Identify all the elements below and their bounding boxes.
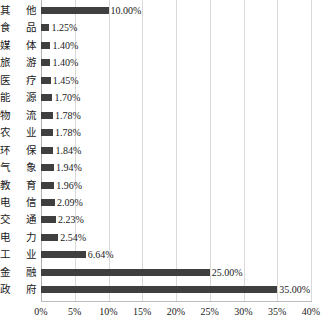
category-label-媒体: 媒体	[0, 39, 36, 52]
value-label-环保: 1.84%	[55, 144, 81, 157]
value-label-媒体: 1.40%	[52, 39, 78, 52]
category-label-电信: 电信	[0, 196, 36, 209]
value-label-医疗: 1.45%	[53, 74, 79, 87]
bar-金融	[41, 269, 210, 276]
value-label-食品: 1.25%	[51, 21, 77, 34]
bar-气象	[41, 164, 54, 171]
bar-row: 能源1.70%	[0, 91, 326, 108]
bar-row: 政府35.00%	[0, 283, 326, 300]
category-label-教育: 教育	[0, 179, 36, 192]
value-label-其他: 10.00%	[111, 4, 142, 17]
bar-交通	[41, 216, 56, 223]
bar-row: 物流1.78%	[0, 109, 326, 126]
bar-row: 医疗1.45%	[0, 74, 326, 91]
category-label-电力: 电力	[0, 231, 36, 244]
bar-农业	[41, 129, 53, 136]
horizontal-bar-chart: 其他10.00%食品1.25%媒体1.40%旅游1.40%医疗1.45%能源1.…	[0, 0, 326, 327]
bar-row: 电信2.09%	[0, 196, 326, 213]
bar-row: 交通2.23%	[0, 213, 326, 230]
category-label-其他: 其他	[0, 4, 36, 17]
bar-row: 金融25.00%	[0, 266, 326, 283]
x-tick-label-15%: 15%	[133, 305, 151, 319]
x-tick-label-25%: 25%	[201, 305, 219, 319]
value-label-电信: 2.09%	[57, 196, 83, 209]
x-tick-label-10%: 10%	[99, 305, 117, 319]
bar-媒体	[41, 42, 50, 49]
bar-电信	[41, 199, 55, 206]
bar-医疗	[41, 77, 51, 84]
bar-row: 气象1.94%	[0, 161, 326, 178]
category-label-工业: 工业	[0, 248, 36, 261]
value-label-政府: 35.00%	[279, 283, 310, 296]
category-label-旅游: 旅游	[0, 56, 36, 69]
bar-row: 其他10.00%	[0, 4, 326, 21]
x-axis-baseline	[41, 301, 312, 302]
value-label-能源: 1.70%	[54, 91, 80, 104]
bar-物流	[41, 112, 53, 119]
bar-食品	[41, 24, 49, 31]
value-label-工业: 6.64%	[88, 248, 114, 261]
bar-工业	[41, 251, 86, 258]
bar-row: 农业1.78%	[0, 126, 326, 143]
x-tick-label-30%: 30%	[234, 305, 252, 319]
category-label-气象: 气象	[0, 161, 36, 174]
x-tick-label-35%: 35%	[268, 305, 286, 319]
category-label-金融: 金融	[0, 266, 36, 279]
bar-row: 旅游1.40%	[0, 56, 326, 73]
bar-row: 电力2.54%	[0, 231, 326, 248]
x-tick-label-20%: 20%	[167, 305, 185, 319]
value-label-物流: 1.78%	[55, 109, 81, 122]
value-label-金融: 25.00%	[212, 266, 243, 279]
bar-row: 工业6.64%	[0, 248, 326, 265]
bar-row: 媒体1.40%	[0, 39, 326, 56]
value-label-农业: 1.78%	[55, 126, 81, 139]
bar-教育	[41, 182, 54, 189]
x-axis-tick-labels: 0%5%10%15%20%25%30%35%40%	[0, 305, 326, 321]
bar-row: 食品1.25%	[0, 21, 326, 38]
bar-政府	[41, 286, 277, 293]
category-label-政府: 政府	[0, 283, 36, 296]
x-tick-label-0%: 0%	[34, 305, 47, 319]
category-label-农业: 农业	[0, 126, 36, 139]
bar-row: 环保1.84%	[0, 144, 326, 161]
value-label-气象: 1.94%	[56, 161, 82, 174]
category-label-环保: 环保	[0, 144, 36, 157]
category-label-医疗: 医疗	[0, 74, 36, 87]
category-label-物流: 物流	[0, 109, 36, 122]
category-label-能源: 能源	[0, 91, 36, 104]
x-tick-label-5%: 5%	[68, 305, 81, 319]
bar-旅游	[41, 59, 50, 66]
value-label-交通: 2.23%	[58, 213, 84, 226]
value-label-旅游: 1.40%	[52, 56, 78, 69]
bar-其他	[41, 7, 109, 14]
category-label-食品: 食品	[0, 21, 36, 34]
value-label-教育: 1.96%	[56, 179, 82, 192]
bar-电力	[41, 234, 58, 241]
value-label-电力: 2.54%	[60, 231, 86, 244]
bar-能源	[41, 94, 52, 101]
category-label-交通: 交通	[0, 213, 36, 226]
bar-环保	[41, 147, 53, 154]
x-tick-label-40%: 40%	[302, 305, 320, 319]
bar-row: 教育1.96%	[0, 179, 326, 196]
